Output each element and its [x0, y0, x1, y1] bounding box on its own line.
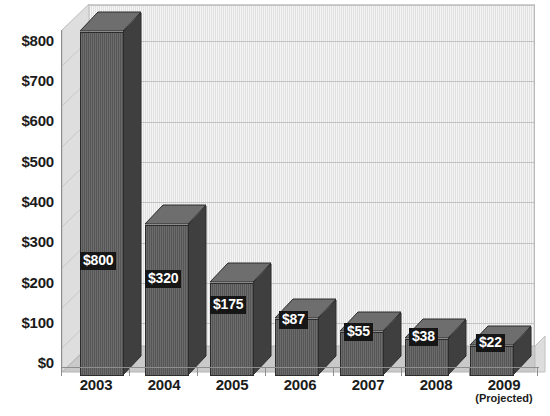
x-category-label: 2004	[148, 376, 181, 393]
bars-layer: $800 $320 $175	[62, 4, 546, 376]
y-tick-label: $0	[38, 354, 54, 371]
x-axis-tick	[401, 367, 402, 376]
y-tick-label: $300	[21, 233, 54, 250]
y-tick-label: $600	[21, 112, 54, 129]
x-axis-tick	[265, 367, 266, 376]
bar-side-face	[318, 300, 338, 376]
x-category-label: 2007	[352, 376, 385, 393]
x-axis-labels: 2003 2004 2005 2006 2007 2008 2009 (Proj…	[62, 376, 546, 416]
x-category-2007: 2007	[352, 376, 385, 393]
y-tick-label: $200	[21, 274, 54, 291]
x-category-2004: 2004	[148, 376, 181, 393]
bar-chart: $800 $700 $600 $500 $400 $300 $200 $100 …	[0, 0, 550, 416]
x-axis-tick	[333, 367, 334, 376]
x-category-sublabel: (Projected)	[475, 392, 532, 404]
y-tick-label: $100	[21, 314, 54, 331]
bar-front-face	[80, 32, 124, 376]
y-axis-line	[61, 30, 62, 368]
bar-front-face	[145, 225, 189, 376]
bar-side-face	[123, 13, 143, 376]
x-category-2008: 2008	[420, 376, 453, 393]
y-tick-label: $700	[21, 72, 54, 89]
x-category-2009: 2009 (Projected)	[475, 376, 532, 404]
bar-value-label: $175	[210, 296, 246, 314]
y-tick-label: $800	[21, 32, 54, 49]
y-tick-label: $500	[21, 153, 54, 170]
x-axis-tick	[129, 367, 130, 376]
bar-value-label: $800	[80, 252, 116, 270]
x-category-label: 2003	[80, 376, 113, 393]
x-axis-line	[61, 367, 539, 368]
x-axis-tick	[197, 367, 198, 376]
x-category-2006: 2006	[284, 376, 317, 393]
bar-side-face	[253, 264, 273, 376]
bar-value-label: $55	[344, 323, 373, 341]
bar-2005[interactable]: $175	[210, 263, 254, 376]
bar-side-face	[513, 327, 533, 376]
y-axis-labels: $800 $700 $600 $500 $400 $300 $200 $100 …	[0, 0, 62, 416]
bar-2003[interactable]: $800	[80, 12, 124, 376]
x-axis-tick	[537, 367, 538, 376]
bar-side-face	[188, 206, 208, 376]
bar-2006[interactable]: $87	[275, 299, 319, 376]
bar-value-label: $320	[145, 270, 181, 288]
x-axis-tick	[469, 367, 470, 376]
x-category-label: 2008	[420, 376, 453, 393]
x-category-2005: 2005	[216, 376, 249, 393]
bar-value-label: $87	[279, 311, 308, 329]
x-category-2003: 2003	[80, 376, 113, 393]
bar-value-label: $38	[409, 328, 438, 346]
x-category-label: 2005	[216, 376, 249, 393]
bar-2004[interactable]: $320	[145, 205, 189, 376]
y-tick-label: $400	[21, 193, 54, 210]
x-category-label: 2006	[284, 376, 317, 393]
x-axis-tick	[61, 367, 62, 376]
bar-value-label: $22	[476, 334, 505, 352]
bar-2009[interactable]: $22	[470, 326, 514, 376]
x-category-label: 2009	[475, 376, 532, 393]
